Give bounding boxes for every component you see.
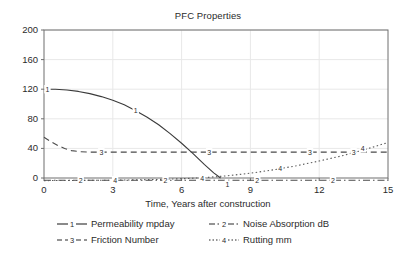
x-axis-tick-label: 3: [101, 184, 125, 195]
x-axis-tick-label: 9: [238, 184, 262, 195]
y-axis-tick-label: 160: [12, 54, 38, 65]
inline-label-text: 3: [308, 149, 312, 156]
legend-label: Noise Absorption dB: [243, 219, 329, 229]
series-inline-label-3: 3: [98, 148, 104, 156]
legend-number: 3: [70, 236, 74, 245]
legend-label: Rutting mm: [243, 235, 292, 245]
y-axis-tick-label: 120: [12, 83, 38, 94]
legend-marker-icon: 4: [208, 235, 240, 245]
legend-number: 4: [222, 236, 226, 245]
series-line-1: [44, 89, 221, 178]
y-axis-tick-label: 80: [12, 113, 38, 124]
x-axis-tick-label: 0: [32, 184, 56, 195]
legend-row: 3Friction Number4Rutting mm: [0, 232, 416, 248]
legend-label: Friction Number: [91, 235, 159, 245]
legend-entry-1[interactable]: 1Permeability mpday: [56, 219, 208, 229]
legend-row: 1Permeability mpday2Noise Absorption dB: [0, 216, 416, 232]
inline-label-text: 2: [255, 177, 259, 184]
series-inline-label-3: 3: [350, 148, 356, 156]
legend-marker-icon: 2: [208, 219, 240, 229]
inline-label-text: 4: [200, 175, 204, 182]
legend-number: 1: [70, 220, 74, 229]
legend-label: Permeability mpday: [91, 219, 174, 229]
x-axis-tick-label: 6: [170, 184, 194, 195]
inline-label-text: 1: [226, 181, 230, 188]
x-axis-tick-label: 12: [307, 184, 331, 195]
series-inline-label-3: 3: [206, 148, 212, 156]
series-inline-label-1: 1: [44, 85, 50, 93]
inline-label-text: 3: [207, 149, 211, 156]
series-inline-label-4: 4: [199, 175, 205, 183]
inline-label-text: 4: [278, 165, 282, 172]
legend-number: 2: [222, 220, 226, 229]
y-axis-tick-label: 0: [12, 172, 38, 183]
y-axis-tick-label: 200: [12, 24, 38, 35]
series-inline-label-1: 1: [224, 180, 230, 188]
series-inline-label-3: 3: [307, 148, 313, 156]
chart-figure: PFC Properties 111222233334444 Time, Yea…: [0, 0, 416, 257]
legend-entry-4[interactable]: 4Rutting mm: [208, 235, 360, 245]
inline-label-text: 4: [361, 145, 365, 152]
series-inline-label-4: 4: [360, 144, 366, 152]
chart-legend: 1Permeability mpday2Noise Absorption dB3…: [0, 216, 416, 248]
plot-frame: [44, 30, 388, 178]
inline-label-text: 2: [331, 177, 335, 184]
inline-label-text: 1: [45, 86, 49, 93]
series-inline-label-4: 4: [277, 164, 283, 172]
y-axis-tick-label: 40: [12, 142, 38, 153]
legend-entry-2[interactable]: 2Noise Absorption dB: [208, 219, 360, 229]
inline-label-text: 1: [134, 107, 138, 114]
inline-label-text: 3: [99, 149, 103, 156]
series-inline-label-1: 1: [133, 106, 139, 114]
x-axis-title: Time, Years after construction: [0, 198, 416, 209]
inline-label-text: 2: [79, 177, 83, 184]
series-inline-label-2: 2: [162, 176, 168, 184]
inline-label-text: 4: [113, 177, 117, 184]
legend-entry-3[interactable]: 3Friction Number: [56, 235, 208, 245]
inline-label-text: 3: [352, 149, 356, 156]
legend-marker-icon: 3: [56, 235, 88, 245]
x-axis-tick-label: 15: [376, 184, 400, 195]
legend-marker-icon: 1: [56, 219, 88, 229]
inline-label-text: 2: [164, 177, 168, 184]
series-inline-label-2: 2: [77, 176, 83, 184]
series-line-3: [44, 137, 388, 152]
